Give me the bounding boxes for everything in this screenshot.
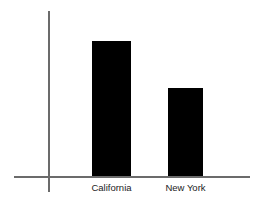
x-tick-label-new-york: New York [152, 181, 219, 194]
bar-new-york [168, 88, 203, 176]
bar-chart: California New York [0, 0, 265, 209]
bars-layer [0, 0, 265, 209]
bar-california [92, 41, 131, 176]
x-tick-label-california: California [76, 181, 147, 194]
